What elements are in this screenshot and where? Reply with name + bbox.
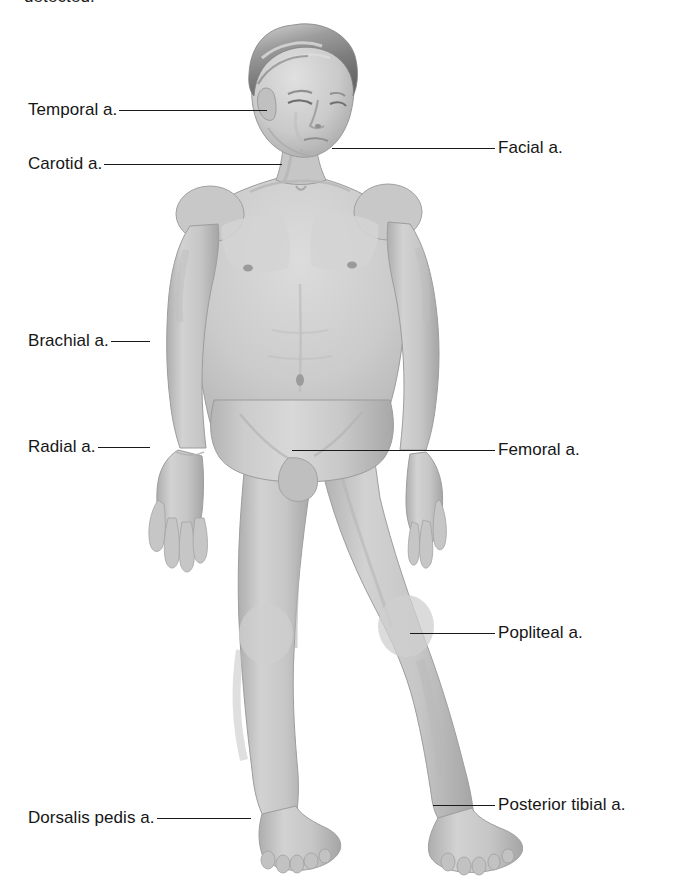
leader-line-popliteal xyxy=(410,633,495,634)
navel xyxy=(296,374,304,386)
leader-line-dorsalis-pedis xyxy=(157,818,251,819)
callout-label-carotid: Carotid a. xyxy=(28,153,102,175)
leader-line-posterior-tibial xyxy=(433,805,495,806)
callout-radial[interactable]: Radial a. xyxy=(28,436,150,458)
leader-line-carotid xyxy=(104,164,282,165)
callout-label-popliteal: Popliteal a. xyxy=(498,622,583,644)
pectoral-viewer-left xyxy=(221,215,290,272)
nostril xyxy=(315,124,321,128)
callout-temporal[interactable]: Temporal a. xyxy=(28,99,267,121)
callout-posterior-tibial[interactable]: Posterior tibial a. xyxy=(433,794,626,816)
callout-dorsalis-pedis[interactable]: Dorsalis pedis a. xyxy=(28,807,251,829)
callout-label-brachial: Brachial a. xyxy=(28,330,109,352)
pectoral-viewer-right xyxy=(310,213,379,270)
callout-femoral[interactable]: Femoral a. xyxy=(292,439,580,461)
callout-label-radial: Radial a. xyxy=(28,436,96,458)
callout-label-facial: Facial a. xyxy=(498,137,563,159)
callout-facial[interactable]: Facial a. xyxy=(332,137,563,159)
nipple-viewer-right xyxy=(347,262,357,269)
leader-line-facial xyxy=(332,148,495,149)
callout-label-posterior-tibial: Posterior tibial a. xyxy=(498,794,626,816)
leader-line-radial xyxy=(98,447,150,448)
callout-popliteal[interactable]: Popliteal a. xyxy=(410,622,583,644)
callout-brachial[interactable]: Brachial a. xyxy=(28,330,150,352)
leader-line-temporal xyxy=(119,110,267,111)
knee-viewer-left xyxy=(239,604,293,664)
nipple-viewer-left xyxy=(243,265,253,272)
callout-carotid[interactable]: Carotid a. xyxy=(28,153,282,175)
anatomy-figure-page: detected. xyxy=(0,0,676,896)
callout-label-temporal: Temporal a. xyxy=(28,99,117,121)
leader-line-brachial xyxy=(111,341,150,342)
callout-label-dorsalis-pedis: Dorsalis pedis a. xyxy=(28,807,155,829)
callout-label-femoral: Femoral a. xyxy=(498,439,580,461)
leader-line-femoral xyxy=(292,450,495,451)
